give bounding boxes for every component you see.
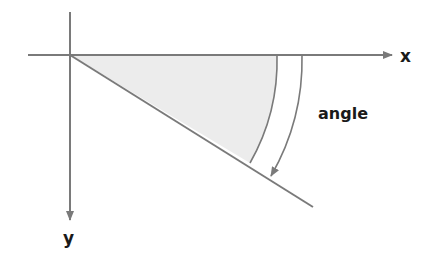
x-axis-label: x xyxy=(400,46,411,66)
angle-sector xyxy=(70,55,277,163)
angle-diagram: x y angle xyxy=(0,0,435,258)
angle-label: angle xyxy=(318,104,368,123)
y-axis-label: y xyxy=(63,228,74,248)
